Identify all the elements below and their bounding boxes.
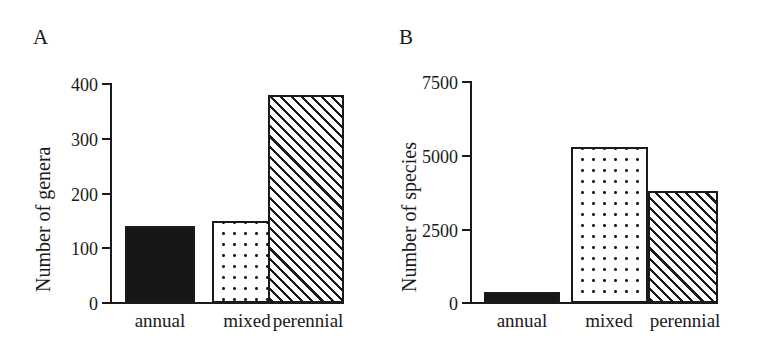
y-tick-label-b-5000: 5000 xyxy=(396,148,458,166)
panel-letter-b: B xyxy=(399,27,413,48)
panel-letter-a: A xyxy=(33,27,48,48)
bar-a-perennial xyxy=(268,95,344,303)
y-tick-b-0 xyxy=(462,302,470,304)
y-axis-line-b xyxy=(470,81,472,304)
y-axis-line-a xyxy=(110,83,112,304)
bar-b-annual xyxy=(484,292,560,303)
y-tick-label-a-0: 0 xyxy=(52,295,98,313)
y-tick-label-b-2500: 2500 xyxy=(396,222,458,240)
y-tick-a-300 xyxy=(102,138,110,140)
y-tick-label-a-300: 300 xyxy=(52,131,98,149)
x-category-label-a-annual: annual xyxy=(120,311,200,330)
y-tick-label-a-100: 100 xyxy=(52,240,98,258)
y-tick-label-b-0: 0 xyxy=(396,295,458,313)
y-tick-a-0 xyxy=(102,302,110,304)
y-tick-b-5000 xyxy=(462,155,470,157)
panel-a: A Number of genera 0 100 200 300 400 ann… xyxy=(0,0,380,348)
x-category-label-b-perennial: perennial xyxy=(638,311,732,330)
y-tick-a-200 xyxy=(102,193,110,195)
bar-b-mixed xyxy=(571,147,648,303)
y-tick-b-2500 xyxy=(462,229,470,231)
y-tick-label-b-7500: 7500 xyxy=(396,74,458,92)
y-tick-label-a-400: 400 xyxy=(52,76,98,94)
y-tick-label-a-200: 200 xyxy=(52,186,98,204)
x-category-label-b-annual: annual xyxy=(480,311,564,330)
panel-b: B Number of species 0 2500 5000 7500 ann… xyxy=(380,0,759,348)
y-axis-label-genera: Number of genera xyxy=(33,147,53,293)
y-tick-a-400 xyxy=(102,83,110,85)
bar-a-annual xyxy=(125,226,195,303)
y-tick-a-100 xyxy=(102,247,110,249)
y-tick-b-7500 xyxy=(462,81,470,83)
bar-b-perennial xyxy=(648,191,718,303)
x-category-label-a-perennial: perennial xyxy=(261,311,355,330)
figure-container: A Number of genera 0 100 200 300 400 ann… xyxy=(0,0,759,348)
